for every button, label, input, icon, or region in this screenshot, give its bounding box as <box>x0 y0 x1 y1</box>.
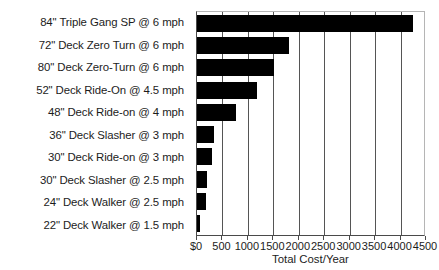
tick-label: 3500 <box>362 240 386 252</box>
tick-label: 1000 <box>235 240 259 252</box>
category-label: 80" Deck Zero-Turn @ 6 mph <box>0 56 190 79</box>
tick-label: 500 <box>212 240 230 252</box>
x-axis-tick-labels: $050010001500200025003000350040004500 <box>196 240 425 254</box>
category-label: 30" Deck Slasher @ 2.5 mph <box>0 169 190 192</box>
tick-label: $0 <box>190 240 202 252</box>
category-label: 52" Deck Ride-On @ 4.5 mph <box>0 79 190 102</box>
bar <box>197 215 200 232</box>
plot-area <box>196 11 425 236</box>
bar-chart: 84" Triple Gang SP @ 6 mph72" Deck Zero … <box>0 0 439 270</box>
bar <box>197 171 207 188</box>
category-label: 84" Triple Gang SP @ 6 mph <box>0 11 190 34</box>
category-label: 24" Deck Walker @ 2.5 mph <box>0 191 190 214</box>
bar <box>197 82 257 99</box>
bar <box>197 193 206 210</box>
category-label: 36" Deck Slasher @ 3 mph <box>0 124 190 147</box>
bar-row <box>197 123 424 145</box>
category-axis-labels: 84" Triple Gang SP @ 6 mph72" Deck Zero … <box>0 11 190 236</box>
x-axis-title: Total Cost/Year <box>196 253 425 265</box>
bar <box>197 15 413 32</box>
tick-label: 2000 <box>286 240 310 252</box>
bar-row <box>197 168 424 190</box>
bar-row <box>197 57 424 79</box>
tick-label: 3000 <box>336 240 360 252</box>
tick-label: 1500 <box>260 240 284 252</box>
bar <box>197 126 214 143</box>
bar-row <box>197 34 424 56</box>
bar <box>197 148 212 165</box>
bar <box>197 104 236 121</box>
bar-row <box>197 12 424 34</box>
tick-label: 4500 <box>413 240 437 252</box>
bar-row <box>197 190 424 212</box>
bar <box>197 59 274 76</box>
tick-label: 2500 <box>311 240 335 252</box>
category-label: 22" Deck Walker @ 1.5 mph <box>0 214 190 237</box>
category-label: 30" Deck Ride-on @ 3 mph <box>0 146 190 169</box>
bar-row <box>197 79 424 101</box>
tick-label: 4000 <box>387 240 411 252</box>
bar-series <box>197 12 424 235</box>
bar-row <box>197 146 424 168</box>
bar-row <box>197 101 424 123</box>
bar <box>197 37 289 54</box>
category-label: 72" Deck Zero Turn @ 6 mph <box>0 34 190 57</box>
bar-row <box>197 213 424 235</box>
category-label: 48" Deck Ride-on @ 4 mph <box>0 101 190 124</box>
